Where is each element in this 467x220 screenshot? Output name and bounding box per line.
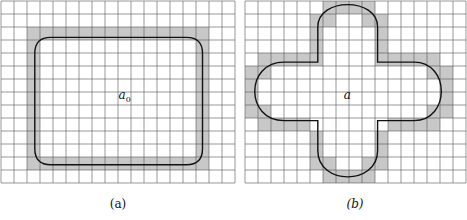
grid-lines (245, 1, 466, 183)
grid-diagram-b: a (0, 0, 467, 185)
panel-b: a (0, 0, 467, 185)
caption-a: (a) (98, 197, 138, 211)
caption-b: (b) (335, 197, 375, 211)
center-label: a (344, 88, 351, 102)
